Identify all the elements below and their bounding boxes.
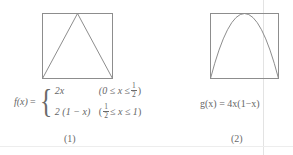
figure-2-graphic	[210, 13, 279, 79]
case-2-fraction-denominator: 2	[103, 111, 109, 120]
case-1-condition: (0 ≤ x ≤ 1 2 )	[99, 82, 141, 99]
case-2-condition: ( 1 2 ≤ x ≤ 1 )	[99, 103, 141, 120]
formula-f-lhs: f(x)	[14, 96, 30, 107]
case-2-condition-close: )	[138, 106, 141, 117]
figure-1-square	[43, 14, 113, 79]
case-1-condition-open: (0 ≤ x ≤	[99, 85, 130, 96]
formula-g-of-x: g(x) = 4x(1−x)	[200, 98, 260, 109]
case-2-expression: 2 (1 − x)	[55, 106, 99, 117]
case-2-condition-mid: ≤ x ≤ 1	[110, 106, 138, 117]
case-1-expression: 2x	[55, 85, 99, 96]
horizontal-guide-line	[0, 146, 293, 147]
case-2-fraction: 1 2	[103, 103, 109, 120]
square-triangle-svg	[42, 13, 113, 79]
figure-2-parabola	[211, 14, 279, 79]
piecewise-cases: 2x (0 ≤ x ≤ 1 2 ) 2 (1 − x) ( 1 2	[55, 84, 141, 118]
case-1-fraction-denominator: 2	[131, 90, 137, 99]
formula-f-equals: =	[30, 96, 38, 107]
figure-2-caption: (2)	[231, 133, 243, 144]
figure-page: f(x) = { 2x (0 ≤ x ≤ 1 2 ) 2 (1 − x) (	[0, 0, 293, 155]
figure-1-triangle	[43, 14, 113, 79]
square-parabola-svg	[210, 13, 279, 79]
formula-f-of-x: f(x) = { 2x (0 ≤ x ≤ 1 2 ) 2 (1 − x) (	[14, 84, 141, 118]
figure-1-caption: (1)	[64, 133, 76, 144]
case-row-1: 2x (0 ≤ x ≤ 1 2 )	[55, 84, 141, 97]
case-1-condition-close: )	[138, 85, 141, 96]
case-2-condition-open: (	[99, 106, 102, 117]
case-1-fraction-numerator: 1	[131, 82, 137, 90]
figure-1-graphic	[42, 13, 113, 79]
case-row-2: 2 (1 − x) ( 1 2 ≤ x ≤ 1 )	[55, 105, 141, 118]
case-1-fraction: 1 2	[131, 82, 137, 99]
left-brace: {	[40, 84, 52, 118]
case-2-fraction-numerator: 1	[103, 103, 109, 111]
